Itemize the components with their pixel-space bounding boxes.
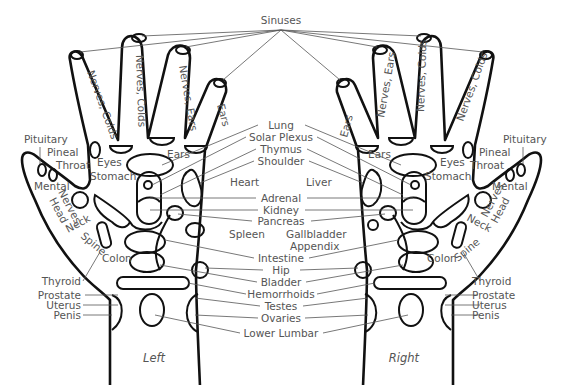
right-hand [337,34,541,385]
right-hand-outline [337,36,541,385]
left-label-pituitary: Pituitary [24,133,68,145]
label-lower-lumbar: Lower Lumbar [244,327,319,339]
label-lung: Lung [268,119,294,131]
label-thymus: Thymus [259,143,302,155]
label-hip: Hip [272,264,290,276]
left-label-colon: Colon [102,252,132,264]
label-intestine: Intestine [258,252,304,264]
right-label-ears: Ears [368,148,391,160]
right-label-gallbladder: Gallbladder [286,228,347,240]
label-bladder: Bladder [261,276,302,288]
left-solar-plexus-dot [144,181,152,189]
left-label-thyroid: Thyroid [41,275,81,287]
left-ears-pad-1 [150,138,174,145]
right-label-pineal: Pineal [479,146,511,158]
left-label-eyes: Eyes [97,156,122,168]
right-label-thyroid: Thyroid [471,275,511,287]
label-shoulder: Shoulder [258,155,305,167]
left-label-stomach: Stomach [90,170,136,182]
left-label-ears: Ears [167,148,190,160]
right-label-appendix: Appendix [290,240,339,252]
left-spleen-spot [186,223,204,237]
label-pancreas: Pancreas [257,215,304,227]
label-sinuses: Sinuses [261,14,301,26]
right-label-stomach: Stomach [425,170,471,182]
left-label-heart: Heart [230,176,259,188]
left-hemorrhoids-band [117,277,189,289]
right-label-colon: Colon [427,252,457,264]
left-eyes-pad [110,146,132,153]
right-appendix-spot [368,220,378,230]
label-ovaries: Ovaries [261,312,301,324]
left-pineal-spot [38,164,46,176]
left-label-penis: Penis [54,309,81,321]
left-finger-2-label: Nerves, Colds [134,55,149,128]
left-heart-shape [182,170,202,207]
right-finger-3-label: Nerves, Colds [414,39,429,112]
label-solar-plexus: Solar Plexus [249,131,313,143]
left-prostate-shape [112,295,122,330]
right-finger-2-label: Nerves, Ears [374,51,397,118]
caption-left: Left [143,351,166,365]
left-bladder-line [156,215,170,270]
label-adrenal: Adrenal [261,192,301,204]
left-finger-4-label: Ears [215,102,233,127]
left-label-throat: Throat [55,159,90,171]
right-label-throat: Throat [469,159,504,171]
caption-right: Right [389,351,420,365]
right-label-pituitary: Pituitary [503,133,547,145]
left-label-pineal: Pineal [47,146,79,158]
left-hip-spot [192,262,208,278]
left-label-spleen: Spleen [229,228,265,240]
left-finger-1-label: Nerves, Colds [85,69,121,141]
reflexology-diagram: Sinuses Lung Solar Plexus Thymus Shoulde… [0,0,563,385]
right-label-liver: Liver [306,176,332,188]
right-finger-4-label: Nerves, Colds [454,51,490,123]
right-label-penis: Penis [472,309,499,321]
label-hemorrhoids: Hemorrhoids [247,288,314,300]
left-lumbar-oval [140,294,164,326]
right-liver-shape [361,170,381,207]
label-testes: Testes [264,300,298,312]
left-finger-3-label: Nerves, Ears [177,64,200,131]
right-label-eyes: Eyes [440,156,465,168]
